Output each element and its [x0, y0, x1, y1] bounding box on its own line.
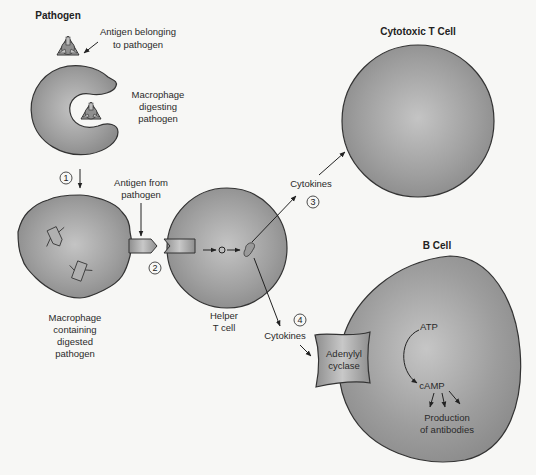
- immune-response-diagram: Pathogen Antigen belonging to pathogen M…: [0, 0, 536, 475]
- antigen-from-label: Antigen from: [114, 177, 168, 188]
- macrophage-containing-label-3: digested: [57, 336, 93, 347]
- digested-pathogen-icon: [81, 102, 101, 119]
- cytokine-arrow-4b: [300, 345, 311, 356]
- macrophage-digesting-label-3: pathogen: [138, 113, 178, 124]
- arrow-to-antigen: [84, 42, 98, 53]
- adenylyl-cyclase-label-2: cyclase: [328, 360, 360, 371]
- adenylyl-cyclase-label: Adenylyl: [326, 348, 362, 359]
- macrophage-containing-label-2: containing: [53, 324, 96, 335]
- macrophage-digesting-label: Macrophage: [132, 89, 185, 100]
- cytotoxic-t-cell-label: Cytotoxic T Cell: [380, 26, 456, 37]
- cytokines-label-4: Cytokines: [264, 330, 306, 341]
- macrophage-digesting-shape: [31, 66, 118, 155]
- antigen-belonging-label: Antigen belonging: [100, 26, 176, 37]
- production-label-2: of antibodies: [420, 424, 474, 435]
- helper-t-label-2: T cell: [213, 322, 236, 333]
- atp-label: ATP: [420, 321, 438, 332]
- camp-label: cAMP: [419, 380, 444, 391]
- macrophage-containing-label: Macrophage: [49, 312, 102, 323]
- pathogen-icon: [57, 36, 79, 55]
- cytokine-arrow-3b: [319, 152, 345, 175]
- macrophage-containing-label-4: pathogen: [55, 348, 95, 359]
- step-2-number: 2: [152, 263, 157, 273]
- pathogen-label: Pathogen: [35, 10, 81, 21]
- production-label: Production: [424, 412, 469, 423]
- antigen-from-label-2: pathogen: [121, 189, 161, 200]
- presented-antigen-shape: [129, 239, 157, 253]
- step-1-number: 1: [63, 173, 68, 183]
- helper-t-label: Helper: [210, 310, 238, 321]
- cytokines-label-3: Cytokines: [290, 178, 332, 189]
- macrophage-digesting-label-2: digesting: [139, 101, 177, 112]
- macrophage-containing-shape: [18, 195, 132, 298]
- antigen-belonging-label-2: to pathogen: [113, 39, 163, 50]
- step-4-number: 4: [297, 315, 302, 325]
- b-cell-label: B Cell: [423, 240, 452, 251]
- step-3-number: 3: [310, 197, 315, 207]
- cytotoxic-t-cell: [342, 45, 494, 197]
